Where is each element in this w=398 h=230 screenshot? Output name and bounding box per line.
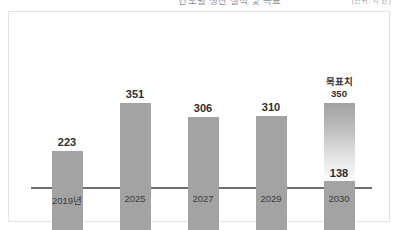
plot-area: 223 2019년 351 2025 306 2027 310 2029 138… — [0, 0, 398, 230]
x-tick-label-2: 2027 — [171, 193, 235, 204]
x-tick-label-0: 2019년 — [35, 193, 99, 207]
chart-screenshot: 연도별 생산 실적 및 목표 (단위: 억 원) 223 2019년 351 2… — [0, 0, 398, 230]
bar-1 — [120, 103, 151, 230]
bar-3 — [256, 116, 287, 230]
bar-2 — [188, 117, 219, 230]
x-tick-label-1: 2025 — [103, 193, 167, 204]
bar-4 — [324, 181, 355, 230]
bar-value-label-1: 351 — [103, 88, 167, 100]
bar-value-label-2: 306 — [171, 102, 235, 114]
bar-0 — [52, 151, 83, 230]
bar-value-label-4: 138 — [307, 167, 371, 179]
x-tick-label-3: 2029 — [239, 193, 303, 204]
bar-value-label-0: 223 — [35, 136, 99, 148]
x-tick-label-4: 2030 — [307, 193, 371, 204]
target-tag-label-4: 목표치 — [307, 76, 371, 87]
target-value-label-4: 350 — [307, 88, 371, 99]
bar-value-label-3: 310 — [239, 101, 303, 113]
